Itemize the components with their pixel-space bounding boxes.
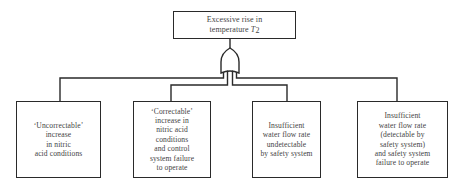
basic-event-box-3: Insufficient water flow rate undetectabl…: [252, 101, 321, 178]
top-event-box: Excessive rise in temperature T2: [173, 11, 296, 39]
event-label: ‘Uncorrectable’ increase in nitric acid …: [34, 121, 84, 159]
connector-event-1: [60, 72, 224, 101]
connector-event-4: [237, 72, 398, 101]
basic-event-box-1: ‘Uncorrectable’ increase in nitric acid …: [16, 101, 101, 178]
temperature-subscript: 2: [255, 26, 259, 35]
event-label: Insufficient water flow rate undetectabl…: [260, 121, 312, 159]
event-label: Insufficient water flow rate (detectable…: [375, 111, 431, 167]
connector-event-2: [171, 71, 228, 102]
basic-event-box-4: Insufficient water flow rate (detectable…: [357, 101, 448, 178]
top-event-label: Excessive rise in temperature T2: [207, 15, 262, 36]
basic-event-box-2: ‘Correctable’ increase in nitric acid co…: [133, 101, 211, 178]
event-label: ‘Correctable’ increase in nitric acid co…: [150, 107, 194, 173]
or-gate-icon: [221, 48, 239, 73]
connector-event-3: [233, 71, 288, 102]
